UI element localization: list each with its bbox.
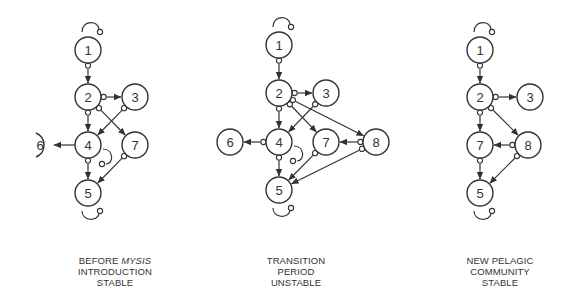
- species-node-1: 1: [266, 32, 292, 58]
- species-node-2: 2: [266, 80, 292, 106]
- node-label: 1: [476, 43, 483, 58]
- node-label: 2: [476, 90, 483, 105]
- species-node-5: 5: [467, 180, 493, 206]
- caption-stability: UNSTABLE: [216, 277, 376, 288]
- node-label: 8: [372, 135, 379, 150]
- edge-2-to-7: [101, 110, 125, 135]
- node-label: 2: [84, 90, 91, 105]
- caption-line: COMMUNITY: [420, 266, 563, 277]
- species-node-6: 6: [36, 133, 44, 157]
- species-node-7: 7: [313, 129, 339, 155]
- caption-line: BEFORE: [79, 255, 121, 266]
- self-regulation-loop-4: [294, 146, 303, 161]
- interaction-origin-marker: [101, 94, 106, 99]
- panel-new-pelagic-community: 123785: [467, 23, 543, 220]
- self-regulation-loop-1: [474, 23, 491, 32]
- species-node-8: 8: [515, 132, 541, 158]
- species-node-1: 1: [75, 37, 101, 63]
- species-node-5: 5: [266, 177, 292, 203]
- node-label: 5: [476, 186, 483, 201]
- caption-line: NEW PELAGIC: [420, 255, 563, 266]
- self-loop-marker: [97, 29, 102, 34]
- species-node-3: 3: [313, 80, 339, 106]
- species-node-2: 2: [75, 84, 101, 110]
- species-node-7: 7: [122, 132, 148, 158]
- caption-line: TRANSITION: [216, 255, 376, 266]
- self-loop-marker: [99, 161, 104, 166]
- node-label: 2: [275, 86, 282, 101]
- self-loop-marker: [288, 205, 293, 210]
- species-node-4: 4: [266, 129, 292, 155]
- interaction-origin-marker: [510, 142, 515, 147]
- node-label: 3: [526, 90, 533, 105]
- panel-transition-period: 12346785: [217, 18, 389, 217]
- species-node-7: 7: [467, 132, 493, 158]
- edge-3-to-4: [289, 106, 313, 131]
- interaction-origin-marker: [477, 63, 482, 68]
- node-label: 1: [275, 38, 282, 53]
- self-loop-marker: [489, 29, 494, 34]
- interaction-origin-marker: [85, 110, 90, 115]
- edges: [244, 18, 365, 217]
- self-regulation-loop-1: [273, 18, 290, 27]
- node-label: 5: [84, 186, 91, 201]
- caption-line: PERIOD: [216, 266, 376, 277]
- species-node-1: 1: [467, 37, 493, 63]
- caption-line: INTRODUCTION: [35, 266, 195, 277]
- self-regulation-loop-1: [82, 23, 99, 32]
- species-node-3: 3: [517, 84, 543, 110]
- node-label: 3: [322, 86, 329, 101]
- self-loop-marker: [489, 208, 494, 213]
- node-label: 6: [36, 138, 43, 153]
- caption-stability: STABLE: [420, 277, 563, 288]
- interaction-origin-marker: [358, 139, 363, 144]
- interaction-origin-marker: [493, 94, 498, 99]
- node-label: 3: [131, 90, 138, 105]
- species-node-3: 3: [122, 84, 148, 110]
- interaction-origin-marker: [276, 155, 281, 160]
- node-label: 8: [524, 138, 531, 153]
- interaction-origin-marker: [292, 90, 297, 95]
- self-regulation-loop-5: [273, 208, 290, 216]
- interaction-origin-marker: [477, 110, 482, 115]
- edge-3-to-4: [98, 110, 122, 135]
- species-node-5: 5: [75, 180, 101, 206]
- caption-transition: TRANSITION PERIOD UNSTABLE: [216, 255, 376, 288]
- interaction-origin-marker: [85, 63, 90, 68]
- node-label: 4: [275, 135, 282, 150]
- edge-8-to-5: [490, 158, 515, 183]
- node-label: 7: [131, 138, 138, 153]
- node-label: 7: [476, 138, 483, 153]
- caption-new-pelagic: NEW PELAGIC COMMUNITY STABLE: [420, 255, 563, 288]
- panel-before-mysis: 1234675: [36, 23, 148, 220]
- self-regulation-loop-5: [474, 211, 491, 219]
- interaction-origin-marker: [477, 158, 482, 163]
- caption-stability: STABLE: [35, 277, 195, 288]
- node-label: 5: [275, 183, 282, 198]
- interaction-origin-marker: [85, 158, 90, 163]
- node-label: 1: [84, 43, 91, 58]
- self-loop-marker: [288, 24, 293, 29]
- self-loop-marker: [290, 158, 295, 163]
- species-node-4: 4: [75, 132, 101, 158]
- caption-before-mysis: BEFORE MYSIS INTRODUCTION STABLE: [35, 255, 195, 288]
- self-regulation-loop-5: [82, 211, 99, 219]
- interaction-origin-marker: [276, 58, 281, 63]
- node-label: 7: [322, 135, 329, 150]
- self-loop-marker: [97, 208, 102, 213]
- species-node-6: 6: [217, 129, 243, 155]
- caption-italic-term: MYSIS: [121, 255, 151, 266]
- node-label: 6: [226, 135, 233, 150]
- interaction-origin-marker: [261, 139, 266, 144]
- species-node-8: 8: [363, 129, 389, 155]
- self-regulation-loop-4: [103, 149, 112, 164]
- node-label: 4: [84, 138, 91, 153]
- interaction-origin-marker: [276, 106, 281, 111]
- edge-2-to-8: [493, 110, 518, 135]
- species-node-2: 2: [467, 84, 493, 110]
- nodes: 1234675: [36, 37, 148, 206]
